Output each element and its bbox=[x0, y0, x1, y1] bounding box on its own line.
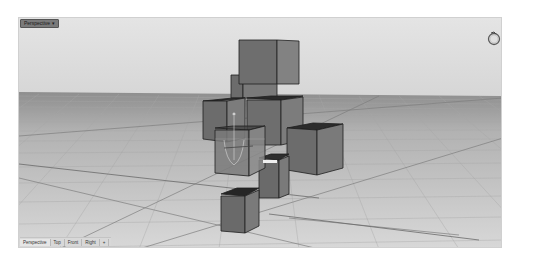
tab-perspective[interactable]: Perspective bbox=[20, 239, 51, 246]
viewport-tab-bar: Perspective Top Front Right + bbox=[20, 237, 111, 246]
cube-right[interactable] bbox=[287, 123, 343, 175]
highlight-gap bbox=[263, 160, 277, 163]
cube-bottom[interactable] bbox=[221, 188, 259, 233]
perspective-viewport[interactable]: Perspective ▾ Perspective Top Front Righ… bbox=[18, 17, 502, 248]
add-viewport-tab-button[interactable]: + bbox=[100, 239, 110, 246]
tab-top[interactable]: Top bbox=[51, 239, 65, 246]
cube-selected[interactable] bbox=[215, 126, 265, 176]
cube-top[interactable] bbox=[239, 40, 299, 84]
rotate-ring-icon[interactable] bbox=[486, 30, 502, 46]
tab-front[interactable]: Front bbox=[65, 239, 83, 246]
viewport-title-tab[interactable]: Perspective ▾ bbox=[20, 19, 59, 28]
3d-scene[interactable] bbox=[19, 18, 502, 248]
tab-right[interactable]: Right bbox=[82, 239, 100, 246]
